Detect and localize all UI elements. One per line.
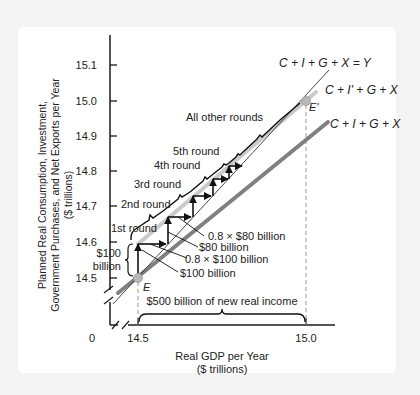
new-income-brace: $500 billion of new real income — [139, 295, 305, 322]
x-axis-units: ($ trillions) — [197, 363, 248, 375]
label-1st-round: 1st round — [111, 222, 157, 234]
label-e-prime: E' — [309, 101, 319, 113]
brace-100-label: $100 — [97, 247, 121, 259]
new-income-label: $500 billion of new real income — [146, 295, 297, 307]
y-tick-14-9: 14.9 — [76, 130, 97, 142]
multiplier-chart: Planned Real Consumption, Investment, Go… — [0, 0, 420, 395]
brace-billion-label: billion — [93, 260, 121, 272]
y-axis-title-line1: Planned Real Consumption, Investment, — [36, 101, 48, 289]
label-e: E — [143, 281, 151, 293]
label-3rd-round: 3rd round — [134, 178, 181, 190]
label-old-ae-line: C + I + G + X — [330, 117, 401, 131]
label-4th-round: 4th round — [154, 159, 200, 171]
x-axis-title: Real GDP per Year — [175, 350, 269, 362]
y-tick-15-1: 15.1 — [76, 59, 97, 71]
y-tick-15-0: 15.0 — [76, 95, 97, 107]
label-08-x-80-billion: 0.8 × $80 billion — [208, 230, 285, 242]
origin-label: 0 — [89, 332, 95, 344]
brace-100-billion: $100 billion — [93, 244, 133, 276]
y-axis-title: Planned Real Consumption, Investment, Go… — [36, 78, 74, 312]
y-axis-title-line3: ($ trillions) — [62, 171, 74, 219]
x-tick-14-5: 14.5 — [127, 332, 148, 344]
label-2nd-round: 2nd round — [121, 198, 171, 210]
round-braces — [131, 103, 300, 240]
label-100-billion: $100 billion — [180, 267, 236, 279]
label-45-degree-line: C + I + G + X = Y — [279, 56, 372, 70]
label-new-ae-line: C + I' + G + X — [325, 83, 399, 97]
x-tick-15-0: 15.0 — [295, 332, 316, 344]
y-axis-title-line2: Government Purchases, and Net Exports pe… — [49, 78, 61, 312]
y-axis: 15.1 15.0 14.9 14.8 14.7 14.6 14.5 — [76, 35, 117, 325]
y-tick-14-8: 14.8 — [76, 165, 97, 177]
point-e — [134, 274, 143, 283]
label-5th-round: 5th round — [173, 145, 219, 157]
y-tick-14-6: 14.6 — [76, 236, 97, 248]
x-axis: 0 14.5 15.0 Real GDP per Year ($ trillio… — [89, 318, 335, 375]
y-tick-14-7: 14.7 — [76, 200, 97, 212]
label-all-other-rounds: All other rounds — [186, 111, 264, 123]
y-tick-14-5: 14.5 — [76, 272, 97, 284]
label-08-x-100-billion: 0.8 × $100 billion — [185, 253, 268, 265]
label-80-billion: $80 billion — [199, 241, 249, 253]
